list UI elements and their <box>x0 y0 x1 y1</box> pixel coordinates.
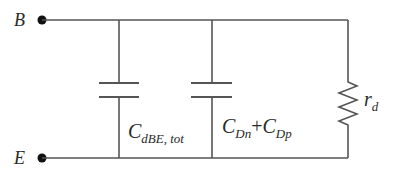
capacitor-cdn-cdp <box>191 20 232 158</box>
circuit-diagram: B E CdBE, tot CDn+CDp rd <box>0 0 405 170</box>
capacitor-cdn-cdp-label: CDn+CDp <box>222 115 292 141</box>
terminal-e-label: E <box>13 148 25 168</box>
terminal-b-label: B <box>14 10 25 30</box>
resistor-rd-label: rd <box>364 88 379 114</box>
resistor-rd <box>339 20 357 158</box>
capacitor-cdbe-tot-label: CdBE, tot <box>128 120 184 146</box>
